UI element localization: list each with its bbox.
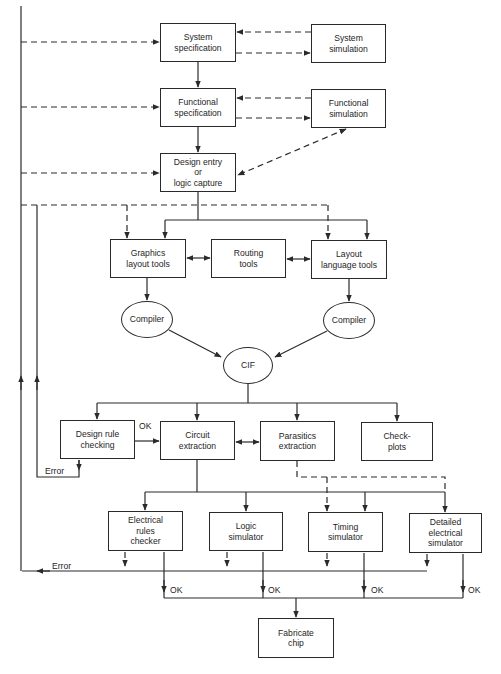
node-system-simulation[interactable]: System simulation <box>311 24 386 63</box>
node-functional-specification[interactable]: Functional specification <box>160 88 236 127</box>
funcsim-design-entry-link <box>238 129 346 175</box>
node-design-rule-checking[interactable]: Design rule checking <box>60 420 135 459</box>
design-flow-diagram: System specification System simulation F… <box>0 0 501 674</box>
edge-label-timing-ok: OK <box>371 585 383 595</box>
node-compiler-right[interactable]: Compiler <box>323 302 375 339</box>
node-detailed-electrical-simulator[interactable]: Detailed electrical simulator <box>409 513 482 553</box>
connector-layer <box>0 0 501 674</box>
edge-label-detailed-ok: OK <box>468 585 480 595</box>
edge-label-drc-error: Error <box>45 466 64 476</box>
node-check-plots[interactable]: Check- plots <box>361 422 433 461</box>
node-compiler-left[interactable]: Compiler <box>121 301 173 338</box>
node-circuit-extraction[interactable]: Circuit extraction <box>160 421 235 460</box>
node-timing-simulator[interactable]: Timing simulator <box>308 512 383 552</box>
edge-label-drc-ok: OK <box>139 421 151 431</box>
node-functional-simulation[interactable]: Functional simulation <box>311 89 386 128</box>
parasitics-dashed-route <box>297 461 445 492</box>
node-logic-simulator[interactable]: Logic simulator <box>209 512 283 551</box>
node-parasitics-extraction[interactable]: Parasitics extraction <box>260 421 335 461</box>
edge-label-erc-ok: OK <box>170 585 182 595</box>
edge-label-sim-error: Error <box>52 561 71 571</box>
node-routing-tools[interactable]: Routing tools <box>211 239 286 278</box>
node-fabricate-chip[interactable]: Fabricate chip <box>258 618 334 658</box>
node-system-specification[interactable]: System specification <box>160 23 236 62</box>
edge-label-logic-ok: OK <box>268 585 280 595</box>
node-layout-language-tools[interactable]: Layout language tools <box>311 240 387 279</box>
node-electrical-rules-checker[interactable]: Electrical rules checker <box>108 511 183 551</box>
node-design-entry[interactable]: Design entry or logic capture <box>160 153 236 192</box>
node-cif[interactable]: CIF <box>223 347 273 384</box>
node-graphics-layout-tools[interactable]: Graphics layout tools <box>110 239 186 278</box>
compiler-left-to-cif <box>169 330 221 357</box>
compiler-right-to-cif <box>275 331 327 357</box>
